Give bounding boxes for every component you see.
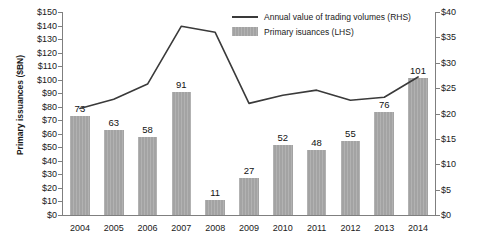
y-left-tick [58, 26, 62, 27]
x-axis-tick-label: 2012 [334, 218, 368, 239]
bar[interactable]: 52 [273, 145, 293, 215]
y-right-tick-label: $40 [441, 7, 456, 17]
x-axis-tick-label: 2004 [63, 218, 97, 239]
line-swatch-icon [232, 16, 258, 18]
bar-value-label: 48 [311, 137, 322, 148]
y-left-tick-label: $60 [42, 129, 57, 139]
x-axis-tick-label: 2014 [401, 218, 435, 239]
bar-value-label: 58 [142, 124, 153, 135]
x-axis-tick-label: 2009 [232, 218, 266, 239]
y-right-tick-label: $30 [441, 58, 456, 68]
y-left-tick-label: $90 [42, 88, 57, 98]
y-right-tick-label: $35 [441, 32, 456, 42]
y-left-tick-label: $70 [42, 115, 57, 125]
bar[interactable]: 11 [205, 200, 225, 215]
bar[interactable]: 63 [104, 130, 124, 215]
y-left-tick [58, 161, 62, 162]
bar-slot: 52 [266, 12, 300, 215]
bar-value-label: 52 [277, 132, 288, 143]
y-right-tick-label: $10 [441, 159, 456, 169]
y-left-tick [58, 120, 62, 121]
bar-value-label: 76 [379, 99, 390, 110]
bar[interactable]: 55 [341, 141, 361, 215]
plot-area: $0$10$20$30$40$50$60$70$80$90$100$110$12… [63, 12, 435, 215]
legend-label-bar: Primary isuances (LHS) [264, 27, 354, 37]
y-left-tick [58, 201, 62, 202]
y-left-tick-label: $150 [37, 7, 57, 17]
x-axis-tick-label: 2007 [164, 218, 198, 239]
y-left-tick [58, 66, 62, 67]
y-left-tick [58, 188, 62, 189]
y-left-tick-label: $30 [42, 169, 57, 179]
chart-container: Primary issuances ($BN) Annual value of … [0, 0, 479, 239]
bar-slot: 101 [401, 12, 435, 215]
y-left-tick-label: $100 [37, 75, 57, 85]
y-right-tick-label: $20 [441, 109, 456, 119]
bar[interactable]: 58 [138, 137, 158, 215]
bar[interactable]: 73 [70, 116, 90, 215]
x-axis-line [62, 215, 436, 216]
bar-slot: 91 [164, 12, 198, 215]
bar-value-label: 63 [108, 117, 119, 128]
bar[interactable]: 101 [408, 78, 428, 215]
bar-slot: 63 [97, 12, 131, 215]
bar[interactable]: 27 [239, 178, 259, 215]
x-axis-tick-label: 2011 [300, 218, 334, 239]
y-left-tick [58, 39, 62, 40]
y-left-tick-label: $50 [42, 142, 57, 152]
bar-value-label: 73 [75, 103, 86, 114]
y-left-tick [58, 215, 62, 216]
y-right-tick [436, 12, 440, 13]
y-right-tick [436, 63, 440, 64]
y-left-tick-label: $120 [37, 48, 57, 58]
bar-value-label: 11 [210, 187, 220, 198]
y-left-tick [58, 80, 62, 81]
y-left-tick-label: $110 [38, 61, 57, 71]
x-axis-tick-label: 2008 [198, 218, 232, 239]
y-right-tick-label: $0 [441, 210, 451, 220]
y-right-tick [436, 164, 440, 165]
y-left-tick-label: $80 [42, 102, 57, 112]
y-left-tick [58, 12, 62, 13]
y-right-tick [436, 215, 440, 216]
x-axis-labels: 2004200520062007200820092010201120122013… [63, 218, 435, 239]
bar-value-label: 91 [176, 79, 187, 90]
y-right-tick-label: $5 [441, 185, 451, 195]
bar[interactable]: 91 [172, 92, 192, 215]
bar-slot: 55 [334, 12, 368, 215]
bar-slot: 48 [300, 12, 334, 215]
bar-slot: 73 [63, 12, 97, 215]
y-right-tick [436, 114, 440, 115]
x-axis-tick-label: 2010 [266, 218, 300, 239]
y-left-tick [58, 134, 62, 135]
bar-slot: 27 [232, 12, 266, 215]
legend-item-line: Annual value of trading volumes (RHS) [232, 10, 402, 23]
bar-value-label: 27 [244, 165, 255, 176]
bar-series: 73635891112752485576101 [63, 12, 435, 215]
y-left-tick [58, 174, 62, 175]
y-axis-left-title: Primary issuances ($BN) [15, 40, 25, 170]
y-right-tick-label: $25 [441, 83, 456, 93]
y-left-tick-label: $10 [42, 196, 57, 206]
x-axis-tick-label: 2005 [97, 218, 131, 239]
chart-legend: Annual value of trading volumes (RHS) Pr… [232, 10, 402, 40]
bar[interactable]: 76 [374, 112, 394, 215]
y-left-tick-label: $130 [37, 34, 57, 44]
y-right-tick [436, 139, 440, 140]
bar-value-label: 55 [345, 128, 356, 139]
x-axis-tick-label: 2013 [367, 218, 401, 239]
y-left-tick [58, 147, 62, 148]
bar-slot: 58 [131, 12, 165, 215]
y-left-tick-label: $140 [37, 21, 57, 31]
y-left-tick [58, 107, 62, 108]
bar[interactable]: 48 [307, 150, 327, 215]
legend-label-line: Annual value of trading volumes (RHS) [264, 12, 411, 22]
legend-item-bar: Primary isuances (LHS) [232, 25, 402, 38]
bar-slot: 11 [198, 12, 232, 215]
bar-slot: 76 [367, 12, 401, 215]
y-right-tick [436, 190, 440, 191]
bar-swatch-icon [232, 27, 258, 36]
y-left-tick-label: $40 [42, 156, 57, 166]
y-right-tick [436, 37, 440, 38]
y-right-tick-label: $15 [441, 134, 456, 144]
